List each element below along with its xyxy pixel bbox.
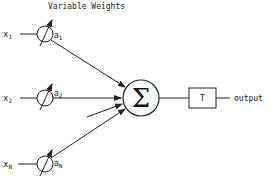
input-1: x1 a1: [3, 20, 125, 87]
input-label-xn: xN: [3, 159, 12, 170]
diagram-title: Variable Weights: [48, 2, 125, 11]
perceptron-diagram: Variable Weights x1 a1 x2 a2 xN aN Σ T: [0, 0, 275, 180]
weight-label-an: aN: [54, 159, 63, 169]
threshold-box: T: [189, 88, 216, 108]
output-label: output: [234, 94, 263, 103]
sigma-icon: Σ: [132, 83, 150, 113]
svg-text:T: T: [200, 94, 205, 103]
input-2: x2 a2: [3, 84, 121, 110]
input-n: xN aN: [3, 109, 125, 176]
input-label-x1: x1: [3, 29, 12, 40]
input-label-x2: x2: [3, 93, 12, 104]
summation-node: Σ: [123, 80, 159, 116]
weight-label-a1: a1: [54, 31, 63, 41]
